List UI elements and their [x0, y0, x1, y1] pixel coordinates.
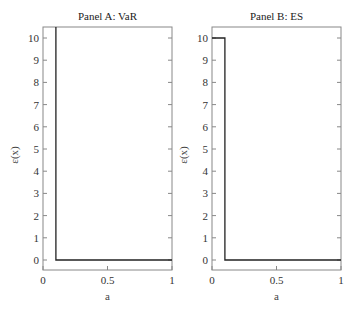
y-tick-label: 8	[203, 76, 209, 88]
y-tick-label: 5	[34, 143, 40, 155]
panel-a: Panel A: VaR01234567891000.51aε(x)	[8, 10, 175, 302]
y-tick-label: 1	[203, 232, 209, 244]
x-axis-label: a	[105, 290, 110, 302]
x-tick-label: 0.5	[101, 274, 115, 286]
x-tick-label: 0	[209, 274, 215, 286]
y-tick-label: 3	[203, 187, 209, 199]
x-tick-label: 0	[40, 274, 46, 286]
y-tick-label: 4	[203, 165, 209, 177]
y-tick-label: 1	[34, 232, 40, 244]
y-tick-label: 3	[34, 187, 40, 199]
y-tick-label: 2	[203, 210, 209, 222]
y-tick-label: 4	[34, 165, 40, 177]
y-axis-label: ε(x)	[177, 146, 190, 164]
plot-frame	[43, 27, 172, 270]
y-tick-label: 10	[197, 32, 209, 44]
y-axis-label: ε(x)	[8, 146, 21, 164]
y-tick-label: 2	[34, 210, 40, 222]
y-tick-label: 9	[34, 54, 40, 66]
panel-b: Panel B: ES01234567891000.51aε(x)	[177, 10, 344, 302]
y-tick-label: 6	[34, 121, 40, 133]
panel-title: Panel B: ES	[250, 10, 303, 22]
x-axis-label: a	[274, 290, 279, 302]
y-tick-label: 9	[203, 54, 209, 66]
chart-canvas: Panel A: VaR01234567891000.51aε(x)Panel …	[0, 0, 354, 309]
y-tick-label: 0	[34, 254, 40, 266]
y-tick-label: 10	[28, 32, 40, 44]
y-tick-label: 7	[34, 99, 40, 111]
y-tick-label: 0	[203, 254, 209, 266]
plot-frame	[212, 27, 341, 270]
series-line	[212, 38, 341, 260]
y-tick-label: 6	[203, 121, 209, 133]
x-tick-label: 0.5	[270, 274, 284, 286]
y-tick-label: 8	[34, 76, 40, 88]
y-tick-label: 5	[203, 143, 209, 155]
y-tick-label: 7	[203, 99, 209, 111]
panel-title: Panel A: VaR	[78, 10, 138, 22]
series-line	[56, 27, 172, 260]
x-tick-label: 1	[169, 274, 175, 286]
x-tick-label: 1	[338, 274, 344, 286]
